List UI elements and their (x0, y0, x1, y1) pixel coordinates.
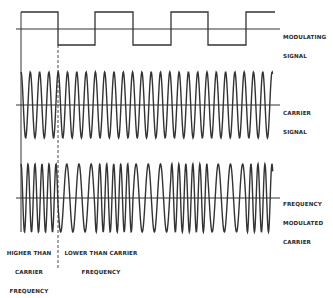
label-line: MODULATING (283, 34, 326, 40)
annotation-line: HIGHER THAN (4, 250, 54, 256)
lower-frequency-annotation: LOWER THAN CARRIER FREQUENCY (64, 238, 138, 288)
modulating-signal-waveform (16, 12, 280, 45)
label-line: MODULATED (283, 220, 323, 226)
fm-carrier-label: FREQUENCY MODULATED CARRIER (283, 189, 323, 257)
annotation-line: FREQUENCY (4, 288, 54, 294)
higher-frequency-annotation: HIGHER THAN CARRIER FREQUENCY (4, 238, 54, 298)
label-line: CARRIER (283, 110, 311, 116)
annotation-line: LOWER THAN CARRIER (64, 250, 138, 256)
label-line: SIGNAL (283, 53, 326, 59)
carrier-signal-label: CARRIER SIGNAL (283, 98, 311, 148)
label-line: SIGNAL (283, 129, 311, 135)
carrier-signal-waveform (16, 72, 280, 138)
label-line: FREQUENCY (283, 201, 323, 207)
annotation-line: CARRIER (4, 269, 54, 275)
modulating-signal-label: MODULATING SIGNAL (283, 22, 326, 72)
fm-carrier-waveform (16, 164, 280, 232)
annotation-line: FREQUENCY (64, 269, 138, 275)
label-line: CARRIER (283, 239, 323, 245)
